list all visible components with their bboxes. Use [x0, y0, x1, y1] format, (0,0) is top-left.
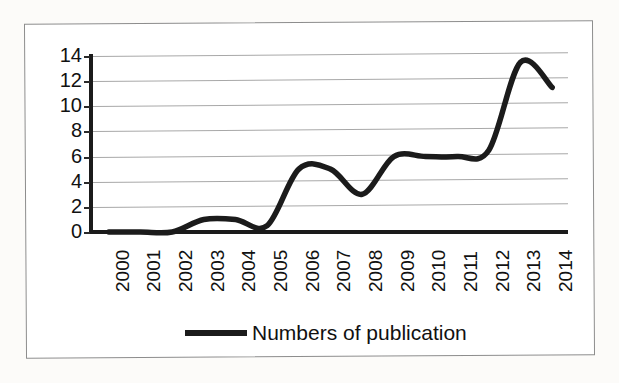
- x-axis-tick-label: 2013: [524, 250, 543, 292]
- x-axis-tick-label: 2003: [208, 250, 227, 292]
- y-axis-tick: [84, 131, 90, 133]
- x-axis-tick-label: 2008: [366, 250, 385, 292]
- x-axis-tick-label: 2000: [113, 250, 132, 292]
- y-axis-tick: [84, 157, 90, 159]
- y-axis-tick: [84, 56, 90, 58]
- series-numbers-of-publication: [93, 56, 568, 232]
- scan-ghost-text-lower: [60, 356, 540, 378]
- y-axis-tick-label: 8: [48, 120, 82, 140]
- y-axis-tick-label: 12: [48, 70, 82, 90]
- x-axis-tick-label: 2011: [461, 251, 480, 292]
- y-axis-tick: [84, 182, 90, 184]
- x-axis-tick-label: 2001: [144, 250, 163, 292]
- y-axis-tick-label: 2: [48, 196, 82, 216]
- x-axis-tick-label: 2004: [239, 250, 258, 292]
- y-axis-labels: 14121086420: [38, 0, 82, 383]
- x-axis-tick-label: 2014: [556, 250, 575, 292]
- y-axis-tick: [84, 106, 90, 108]
- x-axis-tick-label: 2007: [334, 250, 353, 292]
- y-axis-tick-label: 4: [48, 171, 82, 191]
- y-axis-tick-label: 10: [48, 95, 82, 115]
- x-axis-tick-label: 2010: [429, 250, 448, 292]
- x-axis-tick-label: 2009: [398, 250, 417, 292]
- y-axis-tick-label: 6: [48, 146, 82, 166]
- scan-ghost-text-upper: [90, 332, 530, 348]
- series-line-path: [109, 60, 552, 233]
- y-axis-tick-label: 14: [48, 45, 82, 65]
- y-axis-tick: [84, 81, 90, 83]
- y-axis-tick: [84, 232, 90, 234]
- x-axis-tick-label: 2006: [303, 250, 322, 292]
- x-axis-tick-label: 2002: [176, 250, 195, 292]
- x-axis-tick-label: 2012: [493, 250, 512, 292]
- x-axis-tick-label: 2005: [271, 250, 290, 292]
- y-axis-tick: [84, 207, 90, 209]
- y-axis-tick-label: 0: [48, 221, 82, 241]
- x-axis-labels: 2000200120022003200420052006200720082009…: [93, 238, 568, 318]
- line-chart: 14121086420 2000200120022003200420052006…: [0, 0, 619, 383]
